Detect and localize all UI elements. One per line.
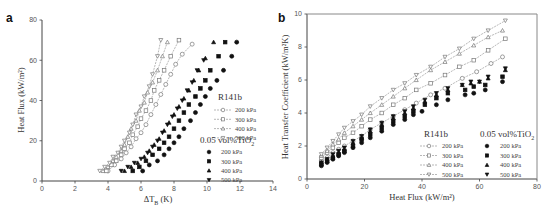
data-point xyxy=(162,141,166,145)
data-point xyxy=(160,131,164,135)
data-point xyxy=(458,65,462,69)
legend-item-label: 400 kPa xyxy=(500,161,521,168)
legend-item-label: 200 kPa xyxy=(235,106,256,113)
legend-title-tio2: 0.05 vol%TiO2 xyxy=(200,135,254,147)
data-point xyxy=(198,103,202,107)
data-point xyxy=(156,139,160,143)
data-point xyxy=(351,144,355,148)
data-point xyxy=(190,42,194,46)
legend-item-label: 200 kPa xyxy=(442,142,463,149)
legend-item: 400 kPa xyxy=(214,125,256,132)
data-point xyxy=(209,69,213,73)
data-point xyxy=(472,43,476,47)
data-point xyxy=(194,95,198,99)
data-point xyxy=(151,153,155,157)
data-point xyxy=(501,75,505,79)
data-point xyxy=(177,135,181,139)
data-point xyxy=(174,62,178,66)
panel-b-y-ticks: 0246810 xyxy=(294,10,307,182)
series xyxy=(320,75,505,166)
data-point xyxy=(149,99,153,103)
legend-item: 400 kPa xyxy=(420,161,463,168)
data-point xyxy=(141,169,145,173)
series xyxy=(320,37,508,159)
data-point xyxy=(435,96,439,100)
data-point xyxy=(177,119,181,123)
data-point xyxy=(472,91,476,95)
data-point xyxy=(212,40,216,44)
data-point xyxy=(414,88,418,92)
x-tick-label: 14 xyxy=(269,185,277,192)
data-point xyxy=(403,115,407,119)
y-tick-label: 10 xyxy=(294,10,302,17)
data-point xyxy=(129,127,133,131)
data-point xyxy=(351,131,355,135)
data-point xyxy=(423,103,427,107)
x-tick-label: 2 xyxy=(73,185,77,192)
legend-item: 500 kPa xyxy=(207,176,242,183)
data-point xyxy=(159,92,163,96)
data-point xyxy=(159,39,163,43)
data-point xyxy=(443,60,447,64)
data-point xyxy=(503,19,507,23)
data-point xyxy=(221,108,225,112)
y-tick-label: 60 xyxy=(29,57,37,64)
x-tick-label: 0 xyxy=(40,185,44,192)
legend-item: 200 kPa xyxy=(214,106,256,113)
data-point xyxy=(483,83,487,87)
panel-b: b 020406080 0246810 Heat Transfer Coeffi… xyxy=(278,10,541,202)
legend-item-label: 400 kPa xyxy=(221,167,242,174)
panel-b-x-ticks: 020406080 xyxy=(305,179,541,190)
legend-item-label: 300 kPa xyxy=(221,158,242,165)
data-point xyxy=(165,123,169,127)
data-point xyxy=(136,125,140,129)
data-point xyxy=(221,118,224,121)
legend-item: 400 kPa xyxy=(207,167,242,174)
data-point xyxy=(215,78,219,82)
x-tick-label: 0 xyxy=(305,183,309,190)
data-point xyxy=(501,29,505,33)
legend-item: 300 kPa xyxy=(214,116,256,123)
data-point xyxy=(380,97,384,101)
data-point xyxy=(190,81,194,85)
data-point xyxy=(485,154,488,157)
data-point xyxy=(463,88,467,92)
data-point xyxy=(460,76,464,80)
y-tick-label: 8 xyxy=(298,43,302,50)
data-point xyxy=(207,150,211,154)
legend-title-r141b: R141b xyxy=(424,129,449,139)
legend-item: 200 kPa xyxy=(207,148,242,155)
data-point xyxy=(391,119,395,123)
legend-item-label: 400 kPa xyxy=(442,161,463,168)
data-point xyxy=(134,113,138,117)
data-point xyxy=(151,73,155,77)
data-point xyxy=(182,127,186,131)
data-point xyxy=(175,107,179,111)
data-point xyxy=(446,91,450,95)
data-point xyxy=(172,127,176,131)
legend-item-label: 300 kPa xyxy=(235,116,256,123)
data-point xyxy=(156,55,160,59)
legend-item-label: 300 kPa xyxy=(500,152,521,159)
data-point xyxy=(207,169,211,172)
data-point xyxy=(337,141,341,145)
data-point xyxy=(139,117,143,121)
data-point xyxy=(147,163,151,167)
data-point xyxy=(165,40,169,44)
data-point xyxy=(144,123,148,127)
data-point xyxy=(208,86,212,90)
data-point xyxy=(427,154,430,157)
data-point xyxy=(485,144,489,148)
data-point xyxy=(187,103,191,107)
x-tick-label: 4 xyxy=(106,185,110,192)
data-point xyxy=(403,82,407,86)
x-tick-label: 6 xyxy=(139,185,143,192)
data-point xyxy=(483,88,487,92)
data-point xyxy=(119,153,123,157)
data-point xyxy=(391,88,395,92)
x-tick-label: 20 xyxy=(361,183,369,190)
y-tick-label: 6 xyxy=(298,76,302,83)
data-point xyxy=(139,131,143,135)
data-point xyxy=(139,105,143,109)
data-point xyxy=(134,137,138,141)
